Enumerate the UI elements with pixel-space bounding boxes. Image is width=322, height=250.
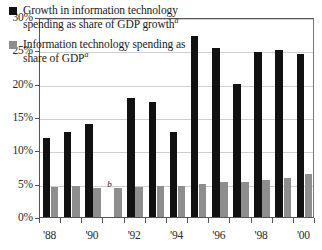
x-tick-label: '88 [43,230,56,242]
x-tick-mark [272,218,273,223]
x-tick-mark [229,218,230,223]
bar-share-1998 [262,180,270,217]
x-tick-mark [314,218,315,223]
bar-growth-1989 [64,132,72,217]
gridline [40,119,313,120]
x-axis: '88'90'92'94'96'98'00 [0,218,322,250]
bar-share-1997 [241,182,249,217]
bar-share-1990 [93,188,101,217]
bar-share-1994 [178,186,186,217]
x-tick-mark [187,218,188,223]
bar-growth-1997 [233,84,241,217]
bar-growth-1999 [275,50,283,217]
chart-legend: Growth in information technology spendin… [9,4,189,72]
x-tick-label: '00 [297,230,310,242]
bar-share-1992 [135,187,143,217]
gray-square-swatch-icon [9,41,17,49]
x-tick-mark [60,218,61,223]
bar-share-1995 [199,184,207,217]
x-tick-mark [81,218,82,223]
it-spending-bar-chart: 0%5%10%15%20%25%30% b '88'90'92'94'96'98… [0,0,322,250]
x-tick-mark [251,218,252,223]
bar-growth-1998 [254,52,262,217]
bar-share-1999 [284,178,292,217]
y-tick-label: 20% [13,79,33,91]
x-tick-mark [208,218,209,223]
bar-growth-2000 [297,54,305,217]
x-tick-mark [39,218,40,223]
bar-share-1996 [220,182,228,217]
x-tick-mark [124,218,125,223]
bar-growth-1992 [127,98,135,217]
gridline [40,86,313,87]
x-tick-label: '90 [85,230,98,242]
legend-entry-growth: Growth in information technology spendin… [9,4,189,31]
y-tick-label: 15% [13,112,33,124]
y-tick-label: 5% [18,179,33,191]
x-tick-mark [102,218,103,223]
bar-growth-1993 [149,102,157,217]
x-tick-label: '96 [212,230,225,242]
legend-label-share: Information technology spending as share… [23,38,189,65]
bar-share-1989 [72,186,80,217]
bar-share-2000 [305,174,313,217]
y-tick-label: 10% [13,145,33,157]
bar-growth-1990 [85,124,93,217]
legend-label-growth: Growth in information technology spendin… [23,4,189,31]
bar-growth-1995 [191,36,199,217]
legend-entry-share: Information technology spending as share… [9,38,189,65]
bar-growth-1996 [212,48,220,217]
x-tick-label: '92 [128,230,141,242]
bar-share-1991 [114,188,122,217]
x-tick-mark [166,218,167,223]
x-tick-label: '94 [170,230,183,242]
footnote-marker-b: b [107,180,112,189]
black-square-swatch-icon [9,7,17,15]
bar-growth-1994 [170,132,178,217]
bar-growth-1988 [43,138,51,217]
x-tick-mark [145,218,146,223]
x-tick-mark [293,218,294,223]
x-tick-label: '98 [255,230,268,242]
bar-share-1993 [157,186,165,217]
bar-share-1988 [51,187,59,217]
